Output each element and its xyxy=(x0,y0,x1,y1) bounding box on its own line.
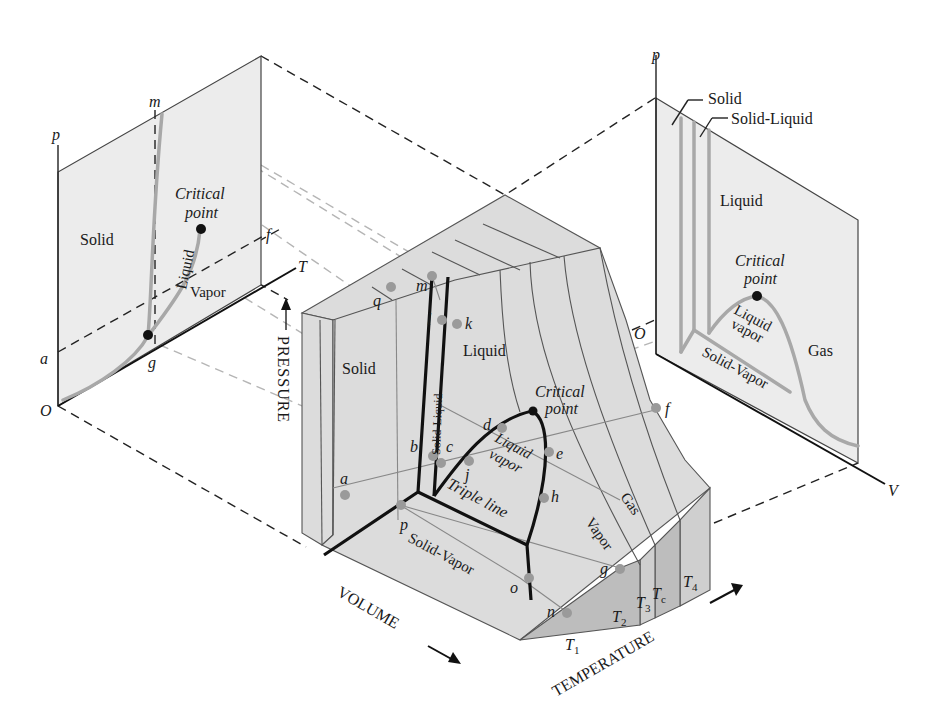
state-point-q xyxy=(386,282,396,292)
pvt-surface xyxy=(302,195,710,640)
label-o: o xyxy=(510,579,518,596)
label-k: k xyxy=(465,315,473,332)
region-solid-liquid-surface: Solid-Liquid xyxy=(429,393,445,455)
state-point-o xyxy=(524,573,534,583)
label-q: q xyxy=(373,292,381,310)
point-g: g xyxy=(148,354,156,372)
state-point-k xyxy=(452,319,462,329)
state-point-l xyxy=(437,315,447,325)
critical-label-surface-1: Critical xyxy=(535,383,585,400)
label-T: T xyxy=(298,258,308,275)
callout-solid: Solid xyxy=(708,90,742,107)
critical-label-surface-2: point xyxy=(544,400,578,418)
region-vapor: Vapor xyxy=(190,284,226,300)
region-solid: Solid xyxy=(80,231,114,248)
label-origin: O xyxy=(40,402,52,419)
label-p: p xyxy=(399,516,408,534)
state-point-e xyxy=(544,447,554,457)
label-g: g xyxy=(600,560,608,578)
critical-point-surface-dot xyxy=(529,407,538,416)
label-n: n xyxy=(547,603,555,620)
region-solid-surface: Solid xyxy=(342,360,376,377)
pressure-arrow-icon xyxy=(281,298,291,310)
region-liquid-right: Liquid xyxy=(720,192,763,210)
left-panel-pT: p T O a f g m Solid Vapor Liquid Critica… xyxy=(40,56,308,419)
label-f: f xyxy=(665,400,672,418)
point-m: m xyxy=(149,93,161,110)
label-c: c xyxy=(446,438,453,455)
state-point-g xyxy=(615,564,625,574)
state-point-m xyxy=(427,271,437,281)
label-p-right: p xyxy=(651,46,660,64)
label-e: e xyxy=(556,445,563,462)
label-origin-right: O xyxy=(634,325,646,342)
label-h: h xyxy=(551,488,559,505)
critical-point-dot xyxy=(196,224,206,234)
point-a: a xyxy=(40,350,48,367)
triple-point xyxy=(143,330,153,340)
state-point-f xyxy=(651,403,661,413)
right-panel-pv: p V O Solid Solid-Liquid Liquid Critical… xyxy=(634,46,900,499)
state-point-h xyxy=(539,493,549,503)
callout-solid-liquid: Solid-Liquid xyxy=(731,110,813,128)
isotherm-T1: T1 xyxy=(565,636,579,656)
state-point-c xyxy=(436,458,446,468)
label-a: a xyxy=(340,470,348,487)
critical-point-dot-right xyxy=(752,291,762,301)
region-gas-right: Gas xyxy=(808,342,833,359)
label-b: b xyxy=(410,438,418,455)
pvt-surface-diagram: p T O a f g m Solid Vapor Liquid Critica… xyxy=(0,0,935,723)
axis-pressure: PRESSURE xyxy=(275,336,292,423)
critical-label-right-1: Critical xyxy=(735,252,785,269)
label-d: d xyxy=(483,416,492,433)
label-l: l xyxy=(427,311,432,328)
critical-label-right-2: point xyxy=(743,270,777,288)
point-f: f xyxy=(266,226,273,244)
state-point-j xyxy=(464,456,474,466)
critical-label-2: point xyxy=(184,204,218,222)
state-point-a xyxy=(340,490,350,500)
axis-volume: VOLUME xyxy=(335,583,403,632)
label-m: m xyxy=(416,277,428,294)
temperature-arrow-icon xyxy=(731,583,743,596)
region-liquid-surface: Liquid xyxy=(463,342,506,360)
critical-label-1: Critical xyxy=(175,185,225,202)
state-point-n xyxy=(562,608,572,618)
label-V: V xyxy=(888,482,900,499)
label-p: p xyxy=(51,126,60,144)
state-point-p xyxy=(396,500,406,510)
